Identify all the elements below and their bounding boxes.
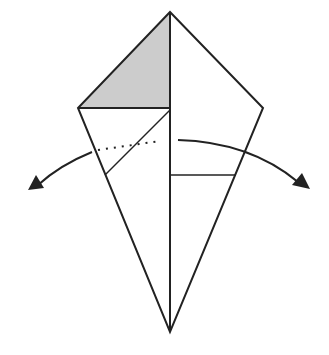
- arrow-left: [38, 152, 92, 185]
- arrow-right-head-icon: [292, 173, 310, 189]
- left-diagonal-fold: [105, 110, 170, 175]
- dotted-fold-line: [98, 141, 160, 150]
- origami-diagram: [0, 0, 329, 355]
